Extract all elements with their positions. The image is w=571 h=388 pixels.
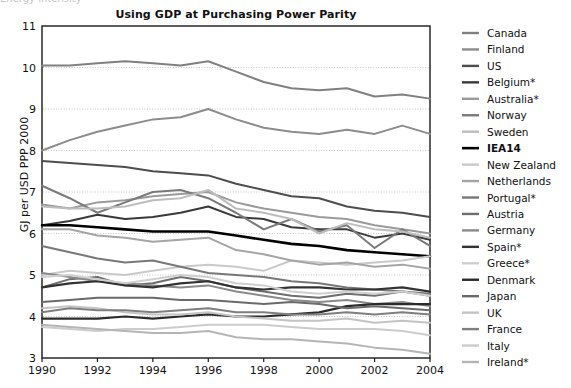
x-tick-label: 2000 [305,364,333,377]
chart-figure: Energy intensity Using GDP at Purchasing… [0,0,571,388]
x-tick-label: 1996 [194,364,222,377]
chart-legend: CanadaFinlandUSBelgium*Australia*NorwayS… [462,27,556,368]
y-tick-label: 9 [29,103,36,116]
y-tick-label: 8 [29,145,36,158]
data-lines [42,61,430,354]
legend-label-sweden[interactable]: Sweden [487,126,529,138]
legend-label-us[interactable]: US [487,60,502,72]
y-axis-ticks: 34567891011 [22,20,36,365]
legend-label-netherlands[interactable]: Netherlands [487,175,551,187]
x-tick-label: 1992 [83,364,111,377]
legend-label-norway[interactable]: Norway [487,109,527,121]
legend-label-spain[interactable]: Spain* [487,241,522,253]
legend-label-belgium[interactable]: Belgium* [487,76,535,88]
legend-label-iea14[interactable]: IEA14 [487,142,521,154]
legend-label-japan[interactable]: Japan [486,290,516,302]
x-tick-label: 2002 [361,364,389,377]
y-tick-label: 11 [22,20,36,33]
legend-label-ireland[interactable]: Ireland* [487,356,529,368]
series-line-iea14 [42,225,430,256]
legend-label-austria[interactable]: Austria [487,208,524,220]
legend-label-germany[interactable]: Germany [487,224,535,236]
series-line-canada [42,61,430,98]
x-tick-label: 1990 [28,364,56,377]
chart-canvas: 34567891011 1990199219941996199820002002… [0,0,571,388]
legend-label-denmark[interactable]: Denmark [487,274,536,286]
legend-label-australia[interactable]: Australia* [487,93,539,105]
legend-label-finland[interactable]: Finland [487,43,525,55]
series-line-finland [42,109,430,151]
x-axis-ticks: 19901992199419961998200020022004 [28,358,444,377]
y-tick-label: 5 [29,269,36,282]
legend-label-uk[interactable]: UK [487,307,503,319]
legend-label-greece[interactable]: Greece* [487,257,530,269]
y-tick-label: 4 [29,311,36,324]
legend-label-newzealand[interactable]: New Zealand [487,159,556,171]
x-tick-label: 2004 [416,364,444,377]
legend-label-france[interactable]: France [487,323,522,335]
y-tick-label: 7 [29,186,36,199]
x-tick-label: 1994 [139,364,167,377]
x-tick-label: 1998 [250,364,278,377]
y-tick-label: 10 [22,62,36,75]
legend-label-portugal[interactable]: Portugal* [487,192,536,204]
y-tick-label: 6 [29,228,36,241]
legend-label-canada[interactable]: Canada [487,27,527,39]
legend-label-italy[interactable]: Italy [487,340,510,352]
